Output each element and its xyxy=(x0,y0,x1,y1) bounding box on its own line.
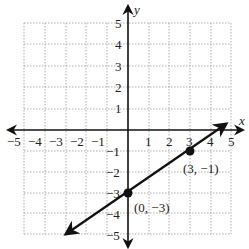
svg-text:5: 5 xyxy=(115,16,122,31)
point-3-neg1 xyxy=(186,147,195,156)
svg-text:1: 1 xyxy=(115,101,122,116)
y-axis-label: y xyxy=(132,2,140,17)
svg-text:−4: −4 xyxy=(28,134,42,149)
coordinate-plane: x y −5 −4 −3 −2 −1 1 2 3 4 5 5 4 3 2 1 −… xyxy=(0,0,249,249)
svg-text:−4: −4 xyxy=(106,207,120,222)
svg-text:−1: −1 xyxy=(91,134,105,149)
point-label-0-neg3: (0, −3) xyxy=(134,200,170,215)
svg-text:5: 5 xyxy=(228,134,235,149)
svg-text:−2: −2 xyxy=(70,134,84,149)
svg-text:−3: −3 xyxy=(49,134,63,149)
svg-text:2: 2 xyxy=(115,80,122,95)
svg-text:2: 2 xyxy=(166,134,173,149)
svg-text:−1: −1 xyxy=(106,144,120,159)
svg-text:1: 1 xyxy=(145,134,152,149)
svg-text:−5: −5 xyxy=(106,228,120,243)
point-0-neg3 xyxy=(124,189,133,198)
svg-text:3: 3 xyxy=(115,59,122,74)
svg-text:−5: −5 xyxy=(7,134,21,149)
point-label-3-neg1: (3, −1) xyxy=(183,161,219,176)
x-axis-label: x xyxy=(238,113,245,128)
svg-text:4: 4 xyxy=(115,37,122,52)
svg-text:−2: −2 xyxy=(106,165,120,180)
